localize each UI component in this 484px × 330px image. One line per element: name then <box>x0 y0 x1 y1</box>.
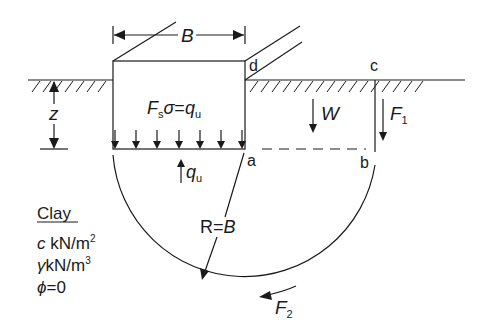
radius-line-bottom <box>204 237 217 274</box>
soil-cohesion: c kN/m2 <box>37 235 95 252</box>
weight-arrowhead <box>309 124 317 133</box>
soil-friction-angle: ϕ=0 <box>37 279 66 296</box>
force2-label: F2 <box>275 298 293 317</box>
radius-label: R=B <box>200 218 236 236</box>
width-label-b: B <box>181 26 194 45</box>
reaction-label: qu <box>186 163 202 181</box>
point-label-b: b <box>360 155 369 171</box>
footing-perspective-top <box>113 22 176 61</box>
force1-label: F1 <box>390 104 408 123</box>
ground-hatch-left <box>32 81 106 92</box>
force1-arrowhead <box>379 132 387 141</box>
point-label-a: a <box>247 153 256 169</box>
point-label-c: c <box>370 58 378 74</box>
slip-circle-arc <box>113 155 375 277</box>
diagram-canvas <box>0 0 484 330</box>
weight-label: W <box>321 104 339 123</box>
radius-arrowhead <box>200 268 209 280</box>
reaction-arrowhead <box>177 159 185 167</box>
dimension-b-arrow-left <box>114 30 125 40</box>
force2-arrowhead <box>259 291 272 300</box>
dimension-b-arrow-right <box>233 30 244 40</box>
soil-unit-weight: γkN/m3 <box>37 257 91 274</box>
depth-label-z: z <box>49 104 59 123</box>
dimension-z-arrow-down <box>49 138 59 149</box>
ground-hatch-right <box>250 81 423 92</box>
footing-perspective-right-top <box>245 26 300 61</box>
point-label-d: d <box>249 58 258 74</box>
footing-equation: Fsσ=qu <box>147 99 201 117</box>
radius-line-top <box>225 153 244 217</box>
soil-title: Clay <box>37 205 71 222</box>
force2-arrow <box>268 286 296 295</box>
pressure-arrows <box>111 130 246 149</box>
